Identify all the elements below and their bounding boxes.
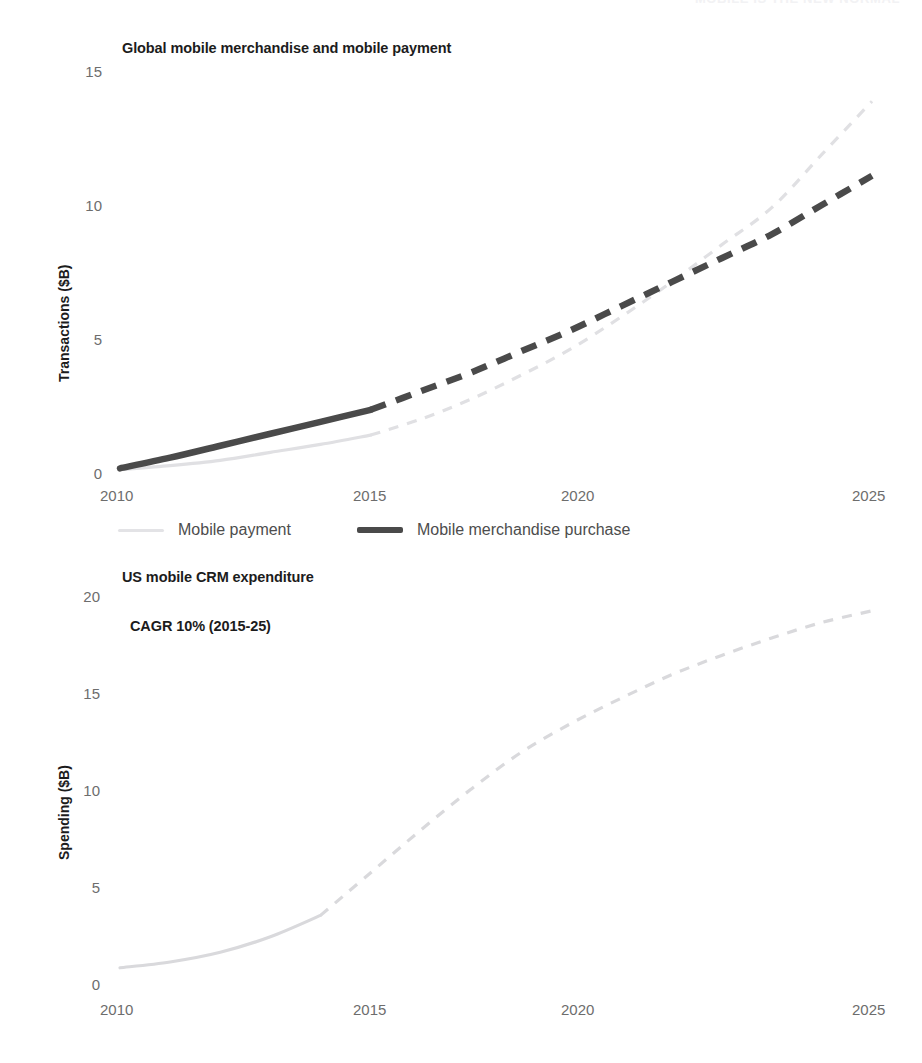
series-line-forecast-0: [321, 611, 872, 916]
legend-item-mobile-merchandise[interactable]: Mobile merchandise purchase: [357, 521, 630, 539]
legend-swatch-dark-line-icon: [357, 527, 403, 533]
series-line-forecast-1: [371, 176, 872, 410]
series-line-solid-0: [120, 915, 321, 967]
legend-item-mobile-payment[interactable]: Mobile payment: [118, 521, 291, 539]
legend-label-mobile-merchandise: Mobile merchandise purchase: [417, 521, 630, 539]
legend-swatch-light-line-icon: [118, 529, 164, 532]
chart1-legend: Mobile payment Mobile merchandise purcha…: [118, 521, 630, 539]
chart-us-mobile-crm: US mobile CRM expenditure CAGR 10% (2015…: [0, 560, 922, 1063]
series-line-solid-1: [120, 410, 371, 469]
chart-page: MOBILE IS THE NEW NORMAL Global mobile m…: [0, 0, 922, 1063]
chart2-plot-area: [0, 560, 922, 1063]
chart-global-mobile: Global mobile merchandise and mobile pay…: [0, 0, 922, 560]
chart1-plot-area: [0, 0, 922, 560]
series-line-forecast-0: [371, 101, 872, 435]
legend-label-mobile-payment: Mobile payment: [178, 521, 291, 539]
